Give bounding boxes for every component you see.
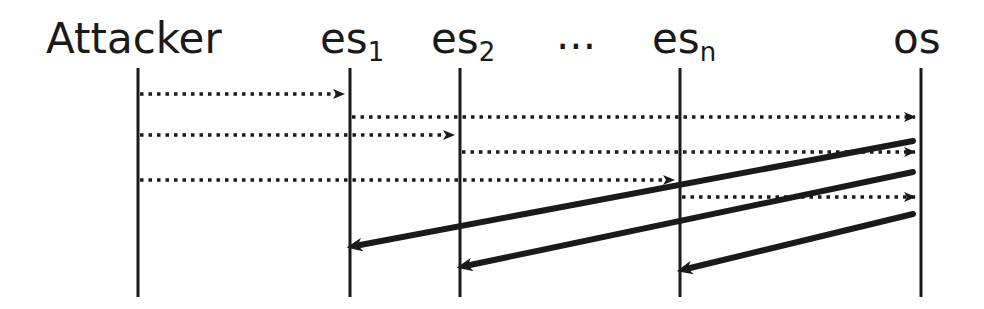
- message-arrow-os-to-esn: [690, 214, 913, 268]
- messages: [140, 94, 915, 268]
- message-arrow-os-to-es2: [470, 172, 913, 265]
- sequence-diagram-canvas: [0, 0, 984, 309]
- lifelines: [138, 68, 921, 297]
